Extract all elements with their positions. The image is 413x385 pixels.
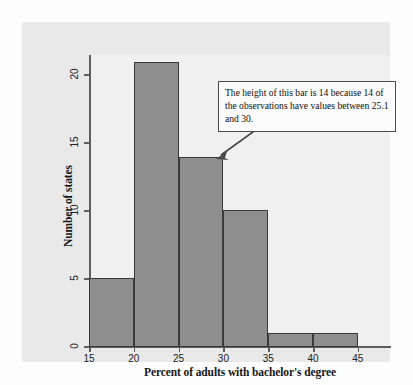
- y-axis-tick: [84, 142, 89, 144]
- histogram-bar: [313, 333, 358, 347]
- x-axis-tick: [358, 347, 360, 352]
- x-axis-tick: [313, 347, 315, 352]
- y-axis-tick: [84, 74, 89, 76]
- x-axis-tick-label: 15: [83, 353, 94, 364]
- x-axis-tick: [268, 347, 270, 352]
- histogram-bar: [89, 278, 134, 347]
- y-axis-tick: [84, 210, 89, 212]
- y-axis-tick-label: 0: [69, 338, 80, 354]
- x-axis-tick: [223, 347, 225, 352]
- x-axis-tick-label: 45: [352, 353, 363, 364]
- callout-text: The height of this bar is 14 because 14 …: [225, 87, 389, 124]
- callout-annotation: The height of this bar is 14 because 14 …: [218, 81, 396, 132]
- y-axis-tick-label: 20: [69, 66, 80, 82]
- histogram-bar: [134, 62, 179, 348]
- x-axis-tick-label: 35: [263, 353, 274, 364]
- histogram-bar: [223, 210, 268, 347]
- x-axis-tick-label: 30: [218, 353, 229, 364]
- x-axis-tick-label: 40: [307, 353, 318, 364]
- x-axis-tick: [134, 347, 136, 352]
- x-axis-tick: [89, 347, 91, 352]
- histogram-bar: [268, 333, 313, 347]
- x-axis-title: Percent of adults with bachelor's degree: [89, 366, 391, 378]
- x-axis-tick-label: 20: [128, 353, 139, 364]
- figure-page: 15 20 25 30 35 40 45 0 5 10 15 20 Percen…: [0, 0, 413, 385]
- x-axis-tick-label: 25: [173, 353, 184, 364]
- y-axis-title: Number of states: [62, 131, 74, 281]
- histogram-bar: [179, 157, 224, 347]
- x-axis-tick: [179, 347, 181, 352]
- y-axis-tick: [84, 278, 89, 280]
- y-axis-tick: [84, 346, 89, 348]
- figure-panel: 15 20 25 30 35 40 45 0 5 10 15 20 Percen…: [22, 22, 390, 362]
